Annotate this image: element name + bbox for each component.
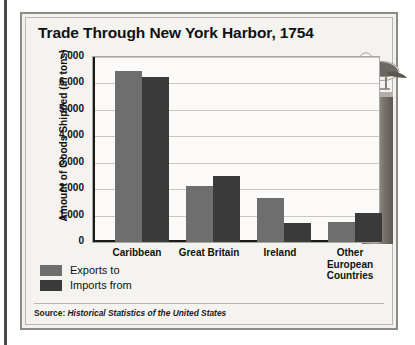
y-tick-0: 0 bbox=[28, 235, 84, 246]
y-axis-line bbox=[93, 57, 95, 242]
source-title: Historical Statistics of the United Stat… bbox=[68, 308, 227, 318]
x-category-great-britain: Great Britain bbox=[173, 247, 245, 259]
y-tick-4000: 4,000 bbox=[28, 129, 84, 140]
bar-other-european-exports bbox=[328, 222, 355, 242]
chart-page: Trade Through New York Harbor, 1754 Amou… bbox=[0, 0, 415, 345]
y-tick-6000: 6,000 bbox=[28, 76, 84, 87]
y-tick-3000: 3,000 bbox=[28, 156, 84, 167]
y-tick-7000: 7,000 bbox=[28, 50, 84, 61]
page-margin-rule bbox=[4, 0, 7, 345]
bar-other-european-imports bbox=[355, 213, 382, 242]
bar-ireland-imports bbox=[284, 223, 311, 242]
legend-swatch-exports bbox=[40, 265, 62, 276]
chart-card-inner: Trade Through New York Harbor, 1754 Amou… bbox=[25, 17, 393, 325]
gridline-7000 bbox=[93, 57, 379, 58]
y-tick-1000: 1,000 bbox=[28, 209, 84, 220]
legend-swatch-imports bbox=[40, 280, 62, 291]
legend-item-imports: Imports from bbox=[40, 279, 132, 291]
chart-title: Trade Through New York Harbor, 1754 bbox=[38, 24, 358, 42]
legend-label-imports: Imports from bbox=[70, 279, 132, 291]
legend: Exports to Imports from bbox=[40, 264, 132, 294]
legend-label-exports: Exports to bbox=[70, 264, 120, 276]
bar-caribbean-imports bbox=[142, 77, 169, 242]
plot-area bbox=[92, 56, 380, 243]
x-category-other-european: Other European Countries bbox=[314, 247, 386, 282]
source-prefix: Source: bbox=[34, 308, 68, 318]
bar-ireland-exports bbox=[257, 198, 284, 242]
bar-great-britain-imports bbox=[213, 176, 240, 242]
chart-card: Trade Through New York Harbor, 1754 Amou… bbox=[20, 12, 398, 330]
bar-caribbean-exports bbox=[115, 71, 142, 242]
y-tick-5000: 5,000 bbox=[28, 103, 84, 114]
source-line: Source: Historical Statistics of the Uni… bbox=[34, 308, 384, 318]
bar-great-britain-exports bbox=[186, 186, 213, 242]
source-container: Source: Historical Statistics of the Uni… bbox=[34, 303, 384, 318]
x-category-caribbean: Caribbean bbox=[98, 247, 176, 259]
legend-item-exports: Exports to bbox=[40, 264, 132, 276]
x-category-ireland: Ireland bbox=[244, 247, 316, 259]
y-tick-2000: 2,000 bbox=[28, 182, 84, 193]
